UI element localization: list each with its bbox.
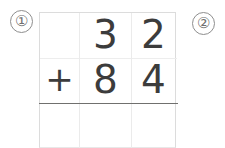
vertical-addition-grid: 3 2 + 8 4: [39, 12, 176, 148]
plus-icon: +: [45, 62, 74, 96]
problem-number-marker-1: ①: [10, 10, 33, 33]
second-addend-row: + 8 4: [40, 58, 175, 103]
second-addend-ones-digit: 4: [131, 58, 175, 103]
first-addend-operator-cell: [40, 13, 79, 58]
first-addend-row: 3 2: [40, 13, 175, 58]
first-addend-tens-digit: 3: [79, 13, 131, 58]
plus-operator-cell: +: [40, 58, 79, 103]
sum-tens-answer-cell[interactable]: [79, 104, 131, 148]
problem-number-marker-2: ②: [192, 12, 215, 35]
second-addend-tens-digit: 8: [79, 58, 131, 103]
sum-answer-row: [40, 104, 175, 148]
sum-carry-cell[interactable]: [40, 104, 79, 148]
sum-ones-answer-cell[interactable]: [131, 104, 175, 148]
addition-worksheet: ① 3 2 + 8 4 ②: [0, 0, 225, 148]
first-addend-ones-digit: 2: [131, 13, 175, 58]
